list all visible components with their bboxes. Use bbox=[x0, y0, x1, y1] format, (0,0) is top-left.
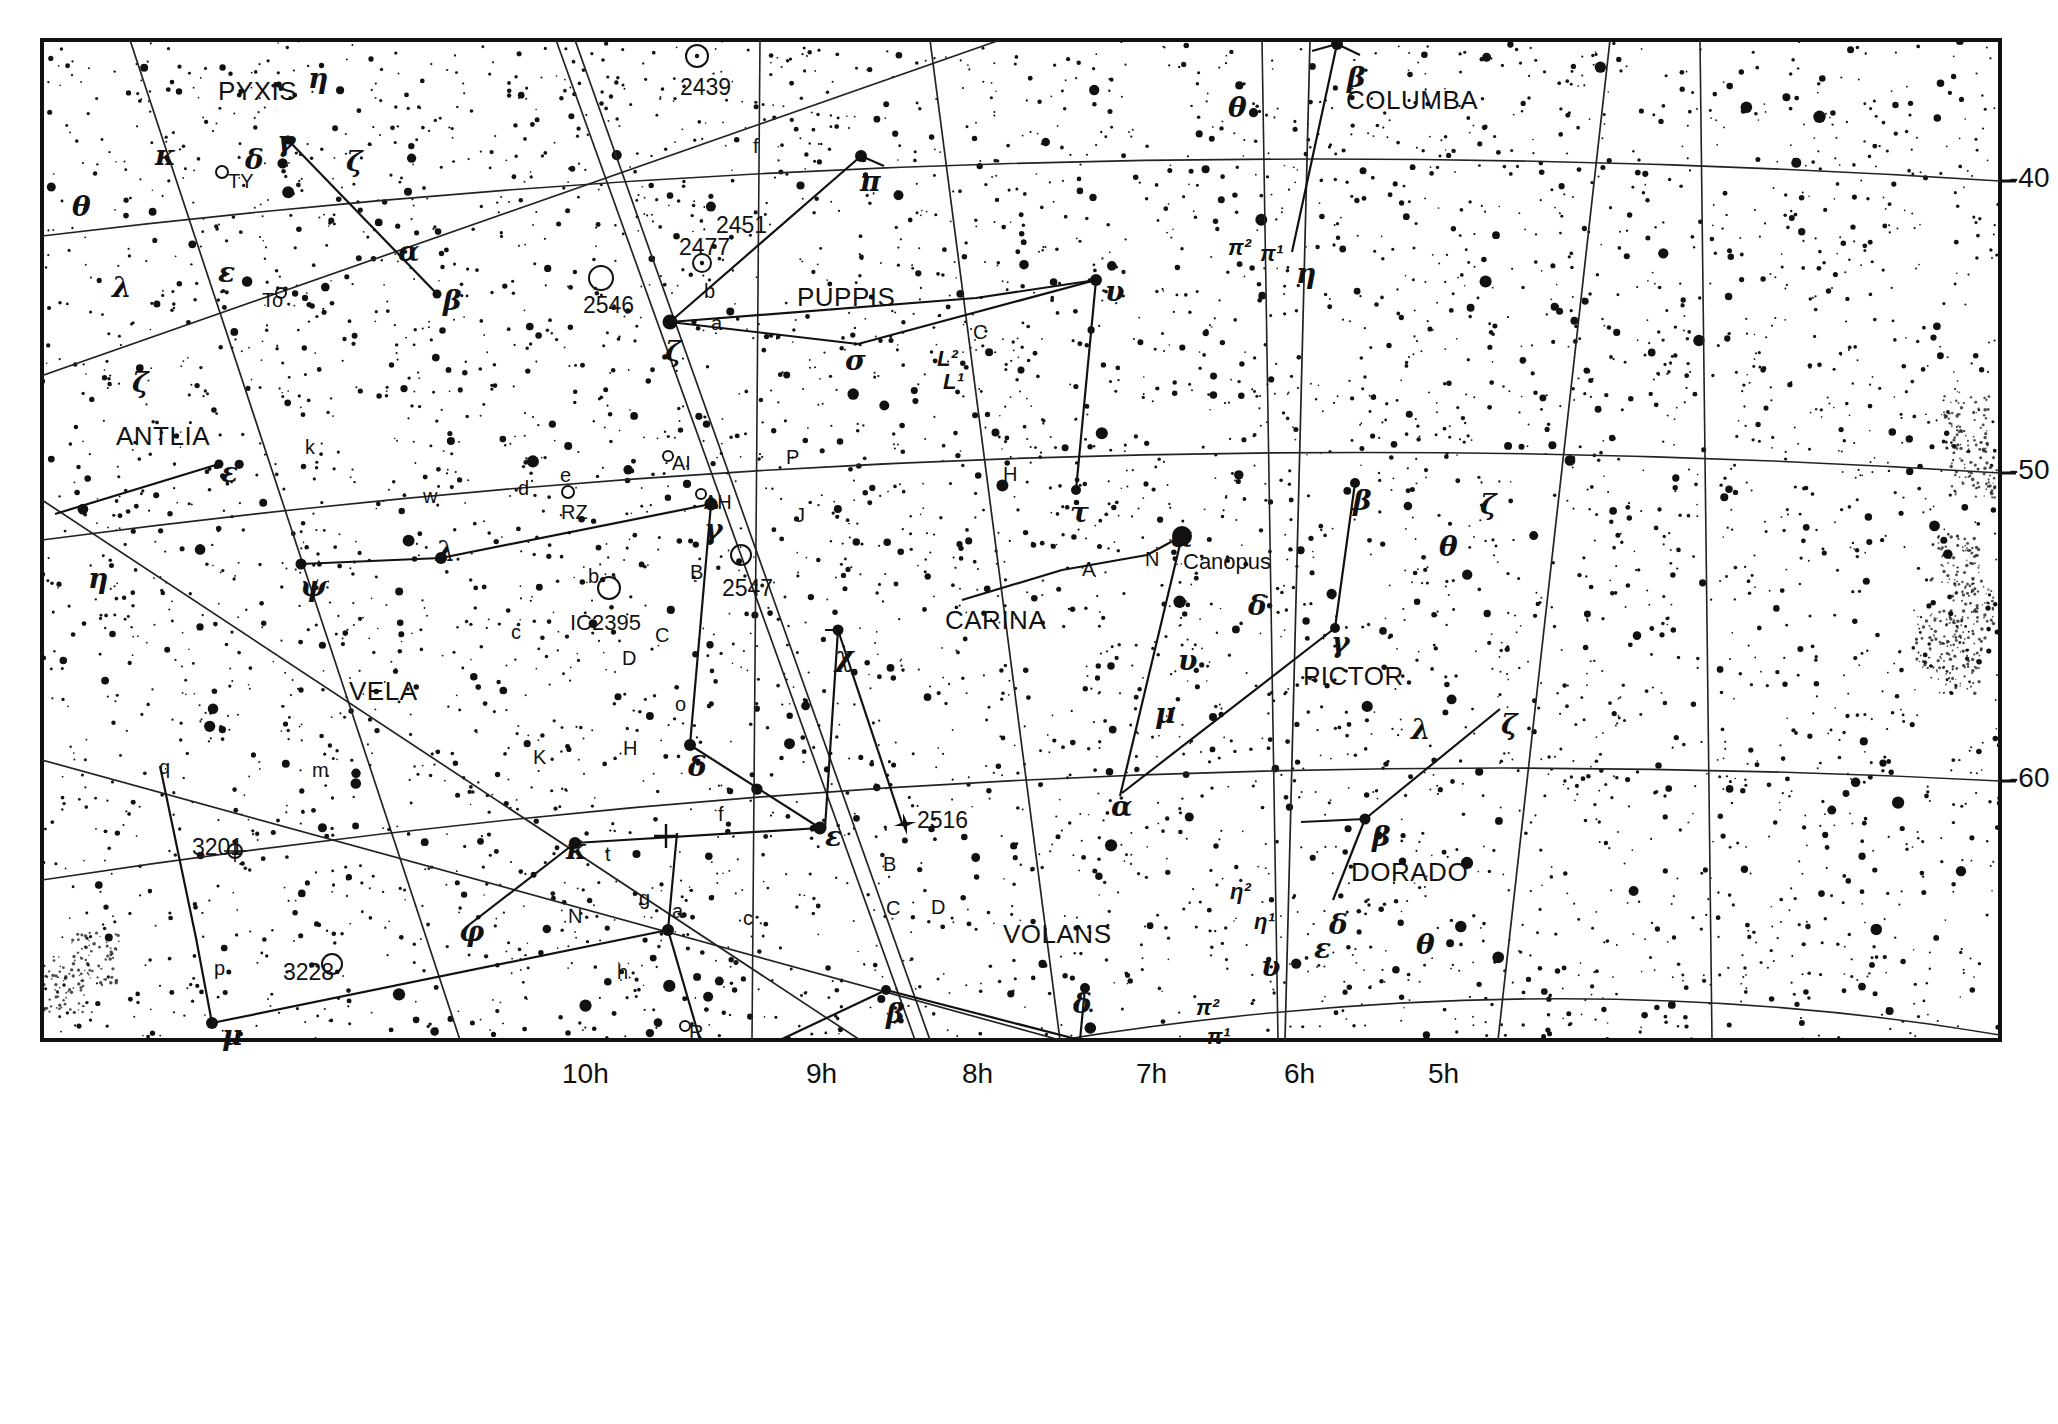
star-label: f bbox=[718, 804, 724, 824]
star-label: λ bbox=[112, 274, 132, 302]
star-label: η¹ bbox=[1254, 911, 1275, 933]
star-label: σ bbox=[845, 347, 866, 375]
star-label: μ bbox=[1155, 700, 1176, 728]
star-label: L² bbox=[937, 348, 958, 370]
star-label: B bbox=[883, 854, 896, 874]
star-label: η² bbox=[1230, 881, 1251, 903]
star-label: w bbox=[423, 486, 437, 506]
star-label: α bbox=[1111, 793, 1133, 821]
star-label: γ bbox=[277, 128, 295, 156]
star-label: D bbox=[931, 897, 945, 917]
constellation-label-vela: VELA bbox=[349, 678, 418, 704]
ra-tick-label-5h: 5h bbox=[1428, 1060, 1459, 1088]
star-label: γ bbox=[704, 516, 722, 544]
star-label: α bbox=[1171, 524, 1193, 552]
dec-tick-label-minus50: -50 bbox=[2009, 456, 2049, 484]
star-label: υ bbox=[1261, 953, 1280, 981]
star-label: k bbox=[305, 437, 315, 457]
star-label: ζ bbox=[1480, 491, 1497, 519]
star-label: β bbox=[886, 1000, 905, 1028]
constellation-label-antlia: ANTLIA bbox=[116, 423, 210, 449]
star-label: γ bbox=[1331, 629, 1349, 657]
star-label: θ bbox=[72, 193, 91, 221]
star-label: κ bbox=[155, 142, 176, 170]
star-label: ζ bbox=[1501, 711, 1518, 739]
ra-tick-label-6h: 6h bbox=[1284, 1060, 1315, 1088]
star-label: AI bbox=[672, 453, 691, 473]
star-label: 2516 bbox=[917, 809, 968, 832]
star-label: h bbox=[617, 962, 628, 982]
star-label: a bbox=[711, 313, 722, 333]
star-label: C bbox=[973, 322, 987, 342]
star-label: ε bbox=[221, 459, 238, 487]
star-label: π² bbox=[1228, 237, 1251, 259]
star-label: IC2395 bbox=[570, 612, 641, 634]
ra-tick-label-9h: 9h bbox=[806, 1060, 837, 1088]
star-label: H bbox=[1003, 464, 1017, 484]
star-label: π bbox=[860, 168, 881, 196]
star-label: b bbox=[704, 281, 715, 301]
star-label: c bbox=[743, 908, 753, 928]
star-label: β bbox=[443, 287, 462, 315]
ra-tick-label-8h: 8h bbox=[962, 1060, 993, 1088]
star-label: δ bbox=[688, 753, 707, 781]
star-label: β bbox=[1347, 64, 1366, 92]
star-label: ζ bbox=[346, 148, 363, 176]
star-label: μ bbox=[222, 1022, 243, 1050]
star-label: β bbox=[1353, 487, 1372, 515]
star-label: N bbox=[1145, 549, 1159, 569]
constellation-label-pictor: PICTOR bbox=[1303, 663, 1404, 689]
star-label: η bbox=[88, 565, 108, 593]
star-label: 2546 bbox=[583, 294, 634, 317]
star-label: θ bbox=[1228, 94, 1247, 122]
star-label: θ bbox=[1416, 931, 1435, 959]
star-label: RZ bbox=[561, 502, 588, 522]
star-label: To bbox=[262, 290, 283, 310]
ra-tick-label-10h: 10h bbox=[562, 1060, 609, 1088]
constellation-label-volans: VOLANS bbox=[1003, 921, 1112, 947]
star-label: B bbox=[690, 562, 703, 582]
star-label: 3228 bbox=[283, 961, 334, 984]
star-label: P bbox=[786, 447, 799, 467]
dec-tick-label-minus40: -40 bbox=[2009, 164, 2049, 192]
star-label: π¹ bbox=[1207, 1026, 1230, 1048]
star-label: δ bbox=[1248, 592, 1267, 620]
ra-tick-label-7h: 7h bbox=[1136, 1060, 1167, 1088]
star-label: L¹ bbox=[943, 371, 964, 393]
star-label: C bbox=[655, 625, 669, 645]
star-label: ε bbox=[218, 259, 235, 287]
star-label: 2451 bbox=[716, 214, 767, 237]
star-label: χ bbox=[835, 643, 853, 671]
constellation-label-dorado: DORADO bbox=[1351, 859, 1468, 885]
star-label: θ bbox=[1439, 533, 1458, 561]
dec-tick-label-minus60: -60 bbox=[2009, 764, 2049, 792]
star-label: λ bbox=[436, 538, 456, 566]
star-label: β bbox=[1372, 823, 1391, 851]
star-label: π² bbox=[1196, 997, 1219, 1019]
star-label: υ bbox=[1105, 278, 1124, 306]
star-label: J bbox=[795, 505, 805, 525]
star-label: D bbox=[622, 648, 636, 668]
star-label: f bbox=[753, 136, 759, 156]
star-label: m bbox=[312, 760, 329, 780]
star-label: υ bbox=[1178, 647, 1197, 675]
star-label: b bbox=[588, 566, 599, 586]
star-chart-page: PYXISANTLIAVELAPUPPISCARINAVOLANSCOLUMBA… bbox=[0, 0, 2058, 1424]
star-label: λ bbox=[1411, 716, 1431, 744]
star-label: e bbox=[560, 465, 571, 485]
star-label: ψ bbox=[300, 573, 326, 601]
constellation-label-carina: CARINA bbox=[945, 607, 1046, 633]
star-label: η bbox=[1296, 260, 1316, 288]
star-label: δ bbox=[1073, 990, 1092, 1018]
star-label: A bbox=[1082, 559, 1095, 579]
star-label: a bbox=[672, 901, 683, 921]
star-label: o bbox=[675, 694, 686, 714]
star-label: AH bbox=[704, 492, 732, 512]
star-label: α bbox=[398, 238, 420, 266]
star-label: t bbox=[605, 844, 611, 864]
star-label: R bbox=[689, 1022, 703, 1042]
constellation-label-pyxis: PYXIS bbox=[218, 78, 297, 104]
star-label: C bbox=[886, 898, 900, 918]
star-label: 2439 bbox=[680, 76, 731, 99]
star-label: ζ bbox=[665, 338, 682, 366]
